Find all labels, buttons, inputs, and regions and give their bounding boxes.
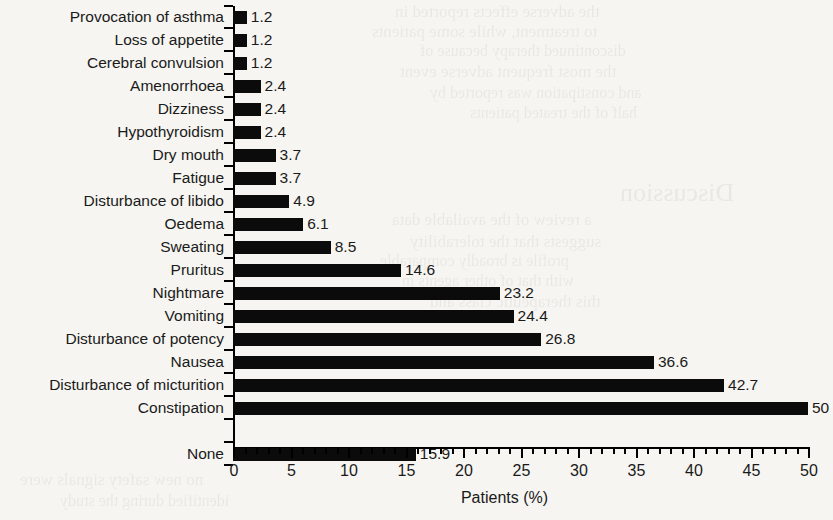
x-axis-minor-tick bbox=[279, 447, 281, 454]
x-axis-minor-tick bbox=[555, 447, 557, 454]
x-axis-tick-label: 25 bbox=[513, 461, 531, 481]
x-axis-minor-tick bbox=[394, 447, 396, 454]
bar bbox=[233, 333, 541, 346]
bar-value-label: 1.2 bbox=[251, 30, 273, 50]
category-label: Disturbance of micturition bbox=[0, 374, 224, 397]
chart-row: 3.7 bbox=[233, 167, 808, 190]
x-axis-tick-label: 0 bbox=[230, 461, 239, 481]
bar-value-label: 3.7 bbox=[280, 145, 302, 165]
x-axis-tick-label: 35 bbox=[628, 461, 646, 481]
category-label: Dizziness bbox=[0, 98, 224, 121]
chart-row: 2.4 bbox=[233, 98, 808, 121]
category-label: Constipation bbox=[0, 397, 224, 420]
bar-value-label: 24.4 bbox=[518, 306, 548, 326]
x-axis-tick-label: 10 bbox=[340, 461, 358, 481]
x-axis-minor-tick bbox=[486, 447, 488, 454]
bar-value-label: 2.4 bbox=[265, 122, 287, 142]
bar-value-label: 4.9 bbox=[293, 191, 315, 211]
x-axis-minor-tick bbox=[670, 447, 672, 454]
x-axis-minor-tick bbox=[705, 447, 707, 454]
y-axis-tick bbox=[224, 280, 233, 282]
x-axis-minor-tick bbox=[785, 447, 787, 454]
chart-row: 3.7 bbox=[233, 144, 808, 167]
x-axis-title-text: Patients (%) bbox=[461, 489, 548, 506]
x-axis-tick-label: 15 bbox=[398, 461, 416, 481]
chart-row: 42.7 bbox=[233, 374, 808, 397]
y-axis-tick bbox=[224, 441, 233, 443]
bar bbox=[233, 218, 303, 231]
category-label-text: Disturbance of potency bbox=[2, 328, 224, 349]
y-axis-tick bbox=[224, 418, 233, 420]
bar-value-label: 6.1 bbox=[307, 214, 329, 234]
x-axis-minor-tick bbox=[325, 447, 327, 454]
category-label-text: Vomiting bbox=[2, 305, 224, 326]
x-axis-minor-tick bbox=[452, 447, 454, 454]
x-axis-major-tick bbox=[348, 447, 350, 458]
category-label-text: Provocation of asthma bbox=[2, 6, 224, 27]
chart-row: 36.6 bbox=[233, 351, 808, 374]
y-axis-tick bbox=[224, 211, 233, 213]
x-axis-major-tick bbox=[693, 447, 695, 458]
category-label-text: Oedema bbox=[2, 213, 224, 234]
y-axis-tick bbox=[224, 96, 233, 98]
x-axis-minor-tick bbox=[590, 447, 592, 454]
bar bbox=[233, 57, 247, 70]
bar bbox=[233, 195, 289, 208]
y-axis-tick bbox=[224, 165, 233, 167]
chart-row: 14.6 bbox=[233, 259, 808, 282]
bar-value-label: 15.9 bbox=[420, 444, 450, 464]
chart-row: 8.5 bbox=[233, 236, 808, 259]
bar bbox=[233, 310, 514, 323]
bar bbox=[233, 11, 247, 24]
x-axis-minor-tick bbox=[245, 447, 247, 454]
bar bbox=[233, 103, 261, 116]
x-axis-major-tick bbox=[233, 447, 235, 458]
category-label: Hypothyroidism bbox=[0, 121, 224, 144]
category-label: Oedema bbox=[0, 213, 224, 236]
x-axis-minor-tick bbox=[797, 447, 799, 454]
y-axis-tick bbox=[224, 395, 233, 397]
bar-value-label: 36.6 bbox=[658, 352, 688, 372]
category-label-text: None bbox=[2, 443, 224, 464]
x-axis-minor-tick bbox=[256, 447, 258, 454]
x-axis-tick-label: 50 bbox=[800, 461, 818, 481]
y-axis-tick bbox=[224, 326, 233, 328]
chart-row: 2.4 bbox=[233, 121, 808, 144]
x-axis-tick-label: 30 bbox=[570, 461, 588, 481]
bar-value-label: 2.4 bbox=[265, 76, 287, 96]
bar bbox=[233, 356, 654, 369]
y-axis-tick bbox=[224, 119, 233, 121]
bar bbox=[233, 287, 500, 300]
x-axis-minor-tick bbox=[383, 447, 385, 454]
x-axis-tick-label: 40 bbox=[685, 461, 703, 481]
category-label: Loss of appetite bbox=[0, 29, 224, 52]
bar-value-label: 26.8 bbox=[545, 329, 575, 349]
category-label: Vomiting bbox=[0, 305, 224, 328]
category-label: Amenorrhoea bbox=[0, 75, 224, 98]
category-label-text: Amenorrhoea bbox=[2, 75, 224, 96]
y-axis-tick bbox=[224, 188, 233, 190]
x-axis-major-tick bbox=[406, 447, 408, 458]
x-axis-major-tick bbox=[463, 447, 465, 458]
category-label: Fatigue bbox=[0, 167, 224, 190]
x-axis-major-tick bbox=[578, 447, 580, 458]
bar-value-label: 8.5 bbox=[335, 237, 357, 257]
category-label-text: Dry mouth bbox=[2, 144, 224, 165]
x-axis-minor-tick bbox=[509, 447, 511, 454]
category-label-text: Pruritus bbox=[2, 259, 224, 280]
y-axis-tick bbox=[224, 303, 233, 305]
x-axis-minor-tick bbox=[498, 447, 500, 454]
x-axis-minor-tick bbox=[532, 447, 534, 454]
x-axis-minor-tick bbox=[647, 447, 649, 454]
x-axis-major-tick bbox=[521, 447, 523, 458]
bar bbox=[233, 402, 808, 415]
category-label: Sweating bbox=[0, 236, 224, 259]
x-axis-tick-label: 20 bbox=[455, 461, 473, 481]
x-axis-minor-tick bbox=[475, 447, 477, 454]
category-label-text: Hypothyroidism bbox=[2, 121, 224, 142]
bar-value-label: 1.2 bbox=[251, 53, 273, 73]
x-axis-minor-tick bbox=[716, 447, 718, 454]
x-axis-minor-tick bbox=[601, 447, 603, 454]
chart-row: 23.2 bbox=[233, 282, 808, 305]
x-axis-minor-tick bbox=[360, 447, 362, 454]
